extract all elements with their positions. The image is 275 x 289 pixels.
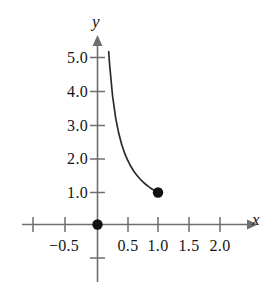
y-tick-label-4: 4.0: [67, 83, 88, 101]
x-tick-label-20: 2.0: [210, 237, 231, 255]
figure-canvas: 5.0 4.0 3.0 2.0 1.0 −0.5 0.5 1.0 1.5 2.0…: [0, 0, 275, 289]
origin-dot: [92, 219, 102, 229]
y-tick-label-1: 1.0: [67, 184, 88, 202]
x-tick-label-15: 1.5: [179, 237, 200, 255]
curve-endpoint-dot: [153, 187, 163, 197]
x-tick-label-neg05: −0.5: [49, 237, 79, 255]
y-axis-label: y: [92, 12, 100, 32]
y-tick-label-3: 3.0: [67, 117, 88, 135]
x-tick-label-05: 0.5: [118, 237, 139, 255]
y-axis-arrowhead: [93, 35, 103, 46]
x-axis: [22, 217, 258, 232]
y-axis: [90, 35, 105, 282]
curve-one-over-x: [109, 52, 158, 193]
x-axis-label: x: [252, 210, 260, 230]
y-tick-label-2: 2.0: [67, 150, 88, 168]
y-tick-label-5: 5.0: [67, 49, 88, 67]
x-tick-label-10: 1.0: [148, 237, 169, 255]
